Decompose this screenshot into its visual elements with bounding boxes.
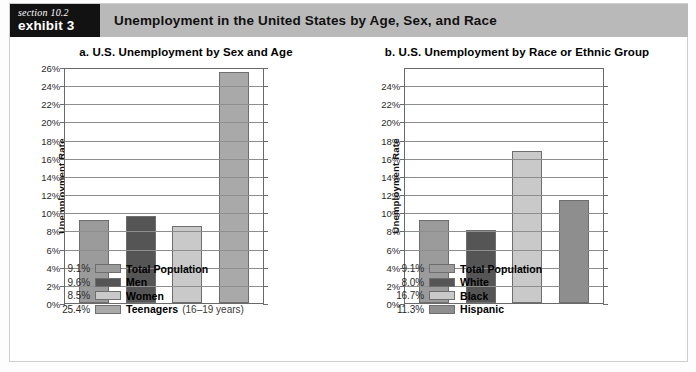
y-tick-mark [60,250,65,251]
y-tick-mark [603,231,608,232]
y-tick-mark [263,231,268,232]
gridline [65,141,263,142]
legend-row: 9.1%Total Population [380,262,696,276]
legend-row: 8.5%Women [46,289,376,303]
y-tick-mark [60,231,65,232]
legend-note: (16–19 years) [182,304,244,315]
legend-value: 11.3% [380,304,424,315]
legend-swatch [429,291,455,300]
gridline [405,159,603,160]
y-tick-mark [263,159,268,160]
plot-top-border [65,68,263,69]
y-tick-mark [60,86,65,87]
legend-row: 25.4%Teenagers(16–19 years) [46,303,376,317]
y-tick-label: 6% [46,244,60,255]
y-tick-mark [603,213,608,214]
y-tick-mark [603,177,608,178]
gridline [65,177,263,178]
gridline [405,104,603,105]
y-tick-mark [263,104,268,105]
y-tick-mark [400,159,405,160]
y-tick-mark [603,86,608,87]
y-tick-mark [603,141,608,142]
y-tick-mark [60,104,65,105]
y-tick-mark [263,86,268,87]
gridline [405,213,603,214]
y-tick-label: 26% [41,63,60,74]
y-tick-label: 8% [46,226,60,237]
legend-label: Total Population [460,263,542,275]
y-tick-mark [263,68,268,69]
y-tick-mark [603,122,608,123]
legend-value: 16.7% [380,290,424,301]
y-tick-mark [263,195,268,196]
y-tick-mark [263,141,268,142]
gridline [405,177,603,178]
y-tick-label: 18% [41,135,60,146]
y-tick-mark [400,250,405,251]
exhibit-badge: section 10.2 exhibit 3 [10,4,100,37]
y-tick-label: 18% [381,135,400,146]
y-tick-label: 14% [41,171,60,182]
legend-value: 25.4% [46,304,90,315]
legend-value: 8.5% [46,290,90,301]
y-tick-mark [60,159,65,160]
y-tick-mark [60,122,65,123]
y-tick-mark [603,250,608,251]
y-tick-label: 24% [381,81,400,92]
y-tick-label: 20% [381,117,400,128]
y-tick-mark [400,104,405,105]
y-tick-label: 14% [381,171,400,182]
y-tick-label: 22% [41,99,60,110]
y-tick-label: 12% [41,190,60,201]
y-tick-mark [400,231,405,232]
y-tick-mark [60,177,65,178]
legend-value: 8.0% [380,277,424,288]
legend-swatch [95,264,121,273]
panel-a-title: a. U.S. Unemployment by Sex and Age [18,44,348,60]
gridline [65,86,263,87]
y-tick-mark [400,177,405,178]
gridline [65,250,263,251]
legend-row: 9.1%Total Population [46,262,376,276]
y-tick-mark [400,195,405,196]
gridline [65,159,263,160]
legend-value: 9.6% [46,277,90,288]
y-tick-mark [263,213,268,214]
y-tick-mark [603,104,608,105]
y-tick-mark [263,250,268,251]
legend-swatch [429,278,455,287]
gridline [405,195,603,196]
legend-row: 16.7%Black [380,289,696,303]
y-tick-label: 16% [41,153,60,164]
exhibit-figure: section 10.2 exhibit 3 Unemployment in t… [0,0,696,372]
legend-swatch [95,305,121,314]
y-tick-mark [603,195,608,196]
gridline [65,104,263,105]
legend-label: Men [126,276,147,288]
legend-value: 9.1% [46,263,90,274]
y-tick-label: 6% [386,244,400,255]
legend-label: White [460,276,489,288]
y-tick-mark [400,122,405,123]
y-tick-label: 12% [381,190,400,201]
gridline [65,231,263,232]
legend-swatch [429,264,455,273]
exhibit-label: exhibit 3 [18,18,100,33]
gridline [405,250,603,251]
y-tick-mark [263,122,268,123]
y-tick-label: 8% [386,226,400,237]
legend-swatch [95,278,121,287]
y-tick-mark [60,141,65,142]
panel-b-title: b. U.S. Unemployment by Race or Ethnic G… [352,44,682,60]
gridline [405,141,603,142]
gridline [65,122,263,123]
y-tick-mark [400,141,405,142]
plot-top-border [405,68,603,69]
gridline [65,213,263,214]
y-tick-label: 24% [41,81,60,92]
legend-label: Women [126,290,164,302]
chart-a-legend: 9.1%Total Population9.6%Men8.5%Women25.4… [18,262,376,316]
gridline [405,231,603,232]
chart-b-legend: 9.1%Total Population8.0%White16.7%Black1… [352,262,696,316]
